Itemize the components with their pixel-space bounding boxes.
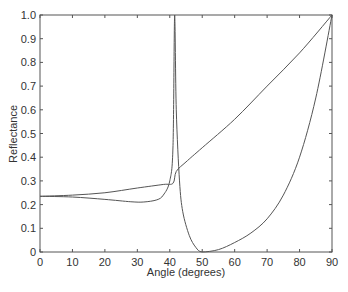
y-tick-label: 0.9 — [21, 33, 36, 45]
y-tick-label: 0.5 — [21, 128, 36, 140]
y-tick-label: 0 — [30, 246, 36, 258]
y-tick-label: 0.2 — [21, 199, 36, 211]
y-tick-label: 0.3 — [21, 175, 36, 187]
plot-frame — [40, 15, 332, 252]
x-tick-label: 30 — [131, 256, 143, 268]
y-tick-label: 0.4 — [21, 151, 36, 163]
x-tick-label: 90 — [326, 256, 338, 268]
series-line-2 — [40, 15, 332, 252]
reflectance-chart: 010203040506070809000.10.20.30.40.50.60.… — [0, 0, 348, 292]
y-tick-label: 0.7 — [21, 80, 36, 92]
x-axis-title: Angle (degrees) — [147, 266, 225, 278]
y-tick-label: 0.1 — [21, 222, 36, 234]
axis-ticks: 010203040506070809000.10.20.30.40.50.60.… — [21, 9, 338, 268]
x-tick-label: 10 — [66, 256, 78, 268]
x-tick-label: 60 — [229, 256, 241, 268]
x-tick-label: 0 — [37, 256, 43, 268]
series-line-1 — [40, 15, 332, 196]
y-tick-label: 0.8 — [21, 56, 36, 68]
x-tick-label: 80 — [293, 256, 305, 268]
y-tick-label: 0.6 — [21, 104, 36, 116]
x-tick-label: 20 — [99, 256, 111, 268]
plot-border — [40, 15, 332, 252]
x-tick-label: 70 — [261, 256, 273, 268]
y-tick-label: 1.0 — [21, 9, 36, 21]
y-axis-title: Reflectance — [7, 105, 19, 163]
data-series — [40, 15, 332, 252]
